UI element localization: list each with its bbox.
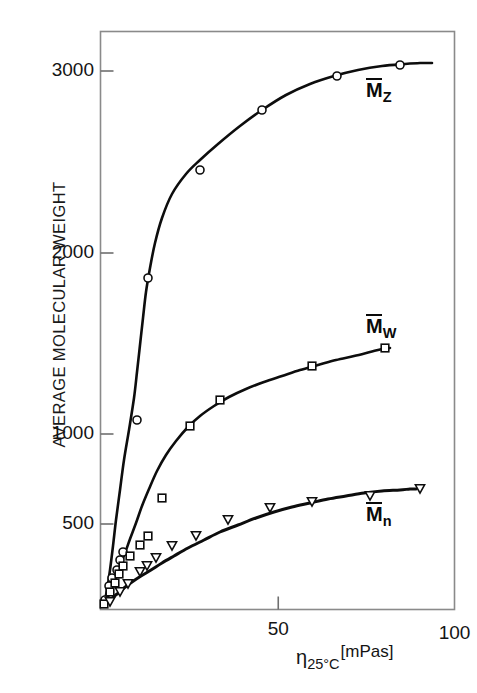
marker-mw xyxy=(144,532,152,540)
x-axis-title: η25°C[mPas] xyxy=(296,642,393,672)
marker-mz xyxy=(196,166,204,174)
y-tick-label-500: 500 xyxy=(2,512,94,534)
x-axis-subscript: 25°C xyxy=(307,656,339,672)
series-label-mn-subscript: n xyxy=(383,513,392,529)
x-tick-label-100: 100 xyxy=(415,622,477,644)
marker-mw xyxy=(106,588,114,596)
marker-mw xyxy=(115,570,123,578)
series-label-mw-subscript: W xyxy=(383,325,397,341)
x-tick-label-50: 50 xyxy=(238,618,318,640)
series-label-mw-base: M xyxy=(366,315,383,338)
y-tick-label-2000: 2000 xyxy=(2,241,94,263)
marker-mw xyxy=(119,562,127,570)
marker-mw xyxy=(381,344,389,352)
series-label-mz-base: M xyxy=(366,79,383,102)
marker-mz xyxy=(144,274,152,282)
chart-figure: AVERAGE MOLECULAR WEIGHT 3000 2000 1000 … xyxy=(0,0,477,693)
x-axis-unit: [mPas] xyxy=(341,642,394,661)
marker-mz xyxy=(133,416,141,424)
series-label-mw: MW xyxy=(366,315,396,341)
marker-mw xyxy=(158,494,166,502)
marker-mw xyxy=(308,362,316,370)
marker-mw xyxy=(111,579,119,587)
y-tick-label-3000: 3000 xyxy=(2,59,94,81)
marker-mw xyxy=(216,396,224,404)
series-label-mn: Mn xyxy=(366,503,392,529)
y-tick-label-1000: 1000 xyxy=(2,422,94,444)
chart-plot-svg xyxy=(0,0,477,693)
series-label-mz-subscript: Z xyxy=(383,89,392,105)
marker-mw xyxy=(186,422,194,430)
chart-background xyxy=(0,0,477,693)
marker-mw xyxy=(136,541,144,549)
marker-mw xyxy=(126,552,134,560)
marker-mz xyxy=(396,61,404,69)
series-label-mz: MZ xyxy=(366,79,392,105)
x-axis-symbol: η xyxy=(296,646,307,668)
series-label-mn-base: M xyxy=(366,503,383,526)
marker-mz xyxy=(258,106,266,114)
y-axis-title: AVERAGE MOLECULAR WEIGHT xyxy=(50,115,69,515)
marker-mz xyxy=(333,72,341,80)
